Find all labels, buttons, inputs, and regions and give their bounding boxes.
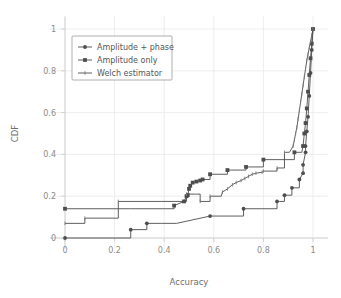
marker-square <box>302 132 306 136</box>
legend-label-1[interactable]: Amplitude only <box>97 56 158 65</box>
marker-square <box>305 107 309 111</box>
marker-square <box>309 56 313 60</box>
marker-square <box>301 144 305 148</box>
cdf-chart-figure: 00.20.40.60.8100.20.40.60.81 AccuracyCDF… <box>0 0 341 298</box>
marker-square <box>208 172 212 176</box>
marker-square <box>293 150 297 154</box>
legend[interactable]: Amplitude + phaseAmplitude onlyWelch est… <box>72 36 174 80</box>
marker-square <box>226 168 230 172</box>
y-tick-label: 0 <box>51 234 56 243</box>
x-tick-label: 1 <box>310 246 315 255</box>
marker-square <box>244 165 248 169</box>
legend-marker-square <box>83 58 87 62</box>
x-tick-label: 0.6 <box>207 246 220 255</box>
marker-circle <box>301 163 305 167</box>
marker-square <box>306 90 310 94</box>
x-tick-label: 0 <box>62 246 67 255</box>
marker-square <box>201 178 205 182</box>
legend-marker-circle <box>83 45 87 49</box>
marker-circle <box>290 186 294 190</box>
marker-circle <box>208 214 212 218</box>
marker-circle <box>301 171 305 175</box>
y-tick-label: 0.8 <box>43 67 56 76</box>
marker-circle <box>242 207 246 211</box>
y-tick-label: 0.4 <box>43 150 56 159</box>
marker-square <box>195 180 199 184</box>
x-tick-label: 0.2 <box>108 246 121 255</box>
y-tick-label: 1 <box>51 25 56 34</box>
x-tick-label: 0.4 <box>158 246 171 255</box>
marker-square <box>304 121 308 125</box>
chart-canvas: 00.20.40.60.8100.20.40.60.81 AccuracyCDF… <box>0 0 341 298</box>
marker-circle <box>304 150 308 154</box>
marker-square <box>307 73 311 77</box>
marker-circle <box>297 178 301 182</box>
x-axis-title: Accuracy <box>170 277 209 287</box>
marker-circle <box>306 115 310 119</box>
y-tick-label: 0.2 <box>43 192 56 201</box>
marker-circle <box>145 221 149 225</box>
y-tick-label: 0.6 <box>43 109 56 118</box>
marker-square <box>262 158 266 162</box>
marker-circle <box>275 200 279 204</box>
marker-circle <box>129 228 133 232</box>
legend-label-0[interactable]: Amplitude + phase <box>97 43 174 52</box>
marker-square <box>172 204 176 208</box>
y-axis-title: CDF <box>10 125 20 142</box>
marker-square <box>63 207 67 211</box>
axis-titles: AccuracyCDF <box>10 125 208 287</box>
marker-square <box>191 181 195 185</box>
legend-label-2[interactable]: Welch estimator <box>97 69 163 78</box>
marker-circle <box>283 193 287 197</box>
marker-circle <box>63 236 67 240</box>
x-tick-label: 0.8 <box>257 246 270 255</box>
